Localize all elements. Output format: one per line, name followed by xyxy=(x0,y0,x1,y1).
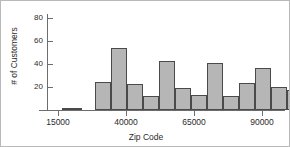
histogram-bar xyxy=(207,63,223,111)
histogram-bar xyxy=(143,96,159,110)
y-axis-tick-label: 20 xyxy=(21,83,43,91)
y-axis-tick-label-text: 60 xyxy=(21,37,43,45)
y-axis-tick-label-text: 20 xyxy=(21,83,43,91)
y-axis-tick-label-text: 80 xyxy=(21,14,43,22)
x-axis-label: Zip Code xyxy=(1,132,290,142)
histogram-bar xyxy=(175,88,191,110)
plot-area xyxy=(48,15,280,110)
y-axis-label: # of Customers xyxy=(9,13,19,99)
x-axis-tick xyxy=(58,111,59,116)
x-axis-tick xyxy=(126,111,127,116)
histogram-bar xyxy=(239,83,255,110)
y-axis-tick-label: 60 xyxy=(21,37,43,45)
histogram-bar xyxy=(111,48,127,110)
x-axis-tick xyxy=(194,111,195,116)
histogram-bar xyxy=(95,82,111,110)
y-axis-tick-label: 80 xyxy=(21,14,43,22)
histogram-bar xyxy=(62,108,82,110)
y-axis-tick-label: 40 xyxy=(21,60,43,68)
y-axis-tick-label-text: 40 xyxy=(21,60,43,68)
x-axis-line xyxy=(39,110,285,111)
x-axis-tick-label: 15000 xyxy=(38,118,78,127)
x-axis-tick xyxy=(262,111,263,116)
histogram-bar xyxy=(255,68,271,110)
histogram-bar xyxy=(127,84,143,110)
x-axis-tick-label: 40000 xyxy=(106,118,146,127)
histogram-bar xyxy=(271,87,287,110)
histogram-bar xyxy=(159,61,175,110)
x-axis-tick-label: 65000 xyxy=(174,118,214,127)
histogram-bar xyxy=(287,90,290,111)
chart-screenshot: 80604020 15000400006500090000 # of Custo… xyxy=(0,0,290,147)
x-axis-tick-label: 90000 xyxy=(242,118,282,127)
histogram-bar xyxy=(191,95,207,110)
histogram-bar xyxy=(223,96,239,110)
